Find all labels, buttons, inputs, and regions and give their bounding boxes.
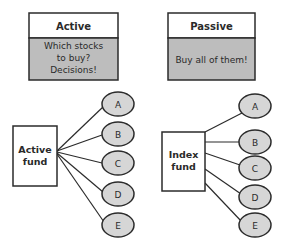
index-connector-c xyxy=(205,153,240,165)
active-body-line-1: Which stocks xyxy=(44,41,104,51)
index-stock-b: B xyxy=(239,130,271,154)
stock-label: A xyxy=(252,102,259,112)
active-header-label: Active xyxy=(56,21,91,32)
index-fund-label-line-1: Index xyxy=(169,149,199,160)
passive-header-label: Passive xyxy=(190,21,233,32)
active-connector-c xyxy=(57,152,102,163)
active-connectors xyxy=(57,106,104,222)
stock-label: D xyxy=(115,190,122,200)
active-connector-d xyxy=(57,153,103,192)
index-connector-d xyxy=(205,169,241,194)
index-stock-a: A xyxy=(239,94,271,118)
active-connector-b xyxy=(57,135,102,151)
index-connector-a xyxy=(205,113,242,132)
stock-label: C xyxy=(252,164,258,174)
active-fund-box: Active fund xyxy=(13,126,57,186)
passive-strategy-box: Passive Buy all of them! xyxy=(168,13,255,80)
index-fund-label-line-2: fund xyxy=(171,161,195,172)
stock-label: B xyxy=(252,138,258,148)
active-body-line-2: to buy? xyxy=(57,53,91,63)
index-stocks: A B C D E xyxy=(239,94,271,237)
index-stock-c: C xyxy=(239,156,271,180)
stock-label: D xyxy=(252,193,259,203)
passive-body-line-1: Buy all of them! xyxy=(175,55,247,65)
stock-label: C xyxy=(115,159,121,169)
active-strategy-box: Active Which stocks to buy? Decisions! xyxy=(29,13,118,80)
index-stock-e: E xyxy=(239,213,271,237)
active-body-line-3: Decisions! xyxy=(50,65,97,75)
active-fund-label-line-1: Active xyxy=(18,144,51,155)
stock-label: E xyxy=(115,221,121,231)
active-vs-passive-diagram: Active Which stocks to buy? Decisions! P… xyxy=(0,0,287,249)
index-connectors xyxy=(205,113,242,222)
active-connector-e xyxy=(57,154,104,222)
index-fund-box: Index fund xyxy=(162,132,205,191)
stock-label: A xyxy=(115,100,122,110)
stock-label: B xyxy=(115,130,121,140)
active-fund-label-line-2: fund xyxy=(23,156,47,167)
active-connector-a xyxy=(57,106,104,151)
active-stock-b: B xyxy=(102,122,134,146)
index-connector-e xyxy=(205,183,242,222)
active-stock-a: A xyxy=(102,92,134,116)
index-stock-d: D xyxy=(239,185,271,209)
active-stocks: A B C D E xyxy=(102,92,134,237)
active-stock-d: D xyxy=(102,182,134,206)
stock-label: E xyxy=(252,221,258,231)
active-stock-e: E xyxy=(102,213,134,237)
active-stock-c: C xyxy=(102,151,134,175)
